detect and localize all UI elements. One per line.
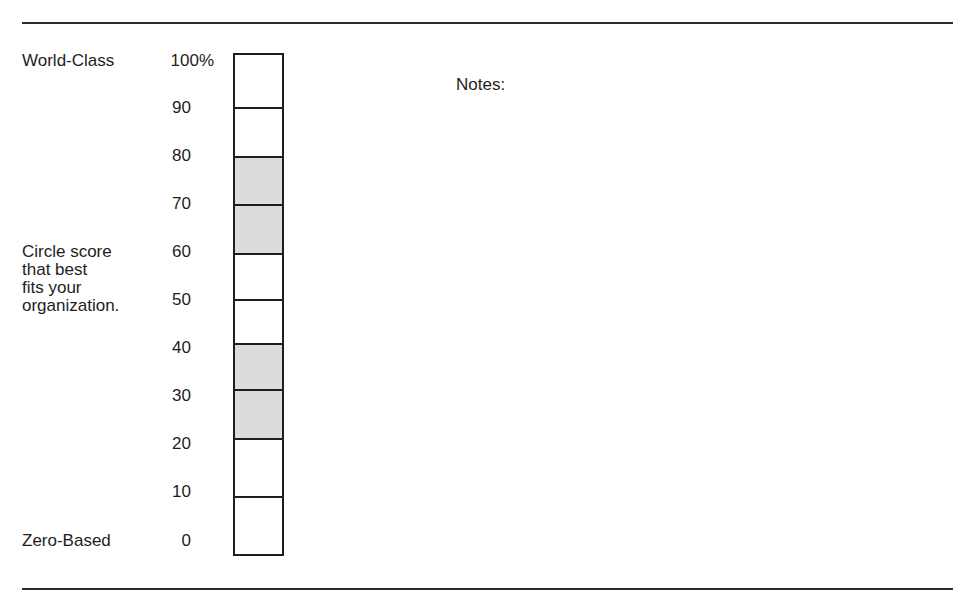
top-divider [22, 22, 953, 24]
tick-60: 60 [141, 243, 191, 261]
segment-10-20[interactable] [235, 438, 282, 496]
world-class-label: World-Class [22, 52, 114, 70]
segment-40-50[interactable] [235, 299, 282, 343]
tick-30: 30 [141, 387, 191, 405]
tick-70: 70 [141, 195, 191, 213]
tick-40: 40 [141, 339, 191, 357]
bottom-divider [22, 588, 953, 590]
instruction-line-2: that best [22, 261, 87, 279]
tick-80: 80 [141, 147, 191, 165]
segment-50-60[interactable] [235, 253, 282, 299]
tick-50: 50 [141, 291, 191, 309]
tick-0: 0 [141, 532, 191, 550]
segment-70-80[interactable] [235, 156, 282, 205]
tick-90: 90 [141, 99, 191, 117]
instruction-line-1: Circle score [22, 243, 112, 261]
segment-80-90[interactable] [235, 107, 282, 157]
segment-60-70[interactable] [235, 204, 282, 253]
notes-label: Notes: [456, 76, 505, 94]
tick-20: 20 [141, 435, 191, 453]
instruction-line-4: organization. [22, 297, 119, 315]
tick-10: 10 [141, 483, 191, 501]
segment-0-10[interactable] [235, 496, 282, 554]
segment-30-40[interactable] [235, 343, 282, 389]
zero-based-label: Zero-Based [22, 532, 111, 550]
segment-20-30[interactable] [235, 389, 282, 438]
segment-90-100[interactable] [235, 55, 282, 109]
tick-100: 100% [164, 52, 214, 70]
score-scale[interactable] [233, 53, 284, 556]
instruction-line-3: fits your [22, 279, 82, 297]
